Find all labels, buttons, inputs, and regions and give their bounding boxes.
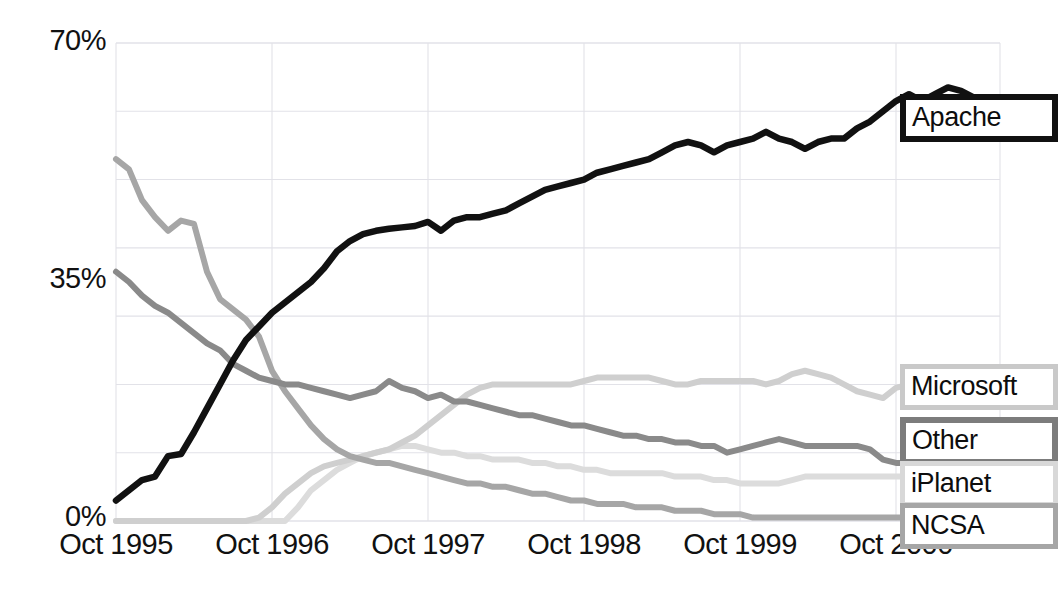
legend-label-other: Other [900, 417, 1058, 465]
legend-label-ncsa: NCSA [900, 503, 1058, 549]
y-tick-label-70: 70% [10, 24, 106, 57]
series-line-iplanet [116, 446, 987, 521]
legend-label-iplanet: iPlanet [900, 461, 1058, 507]
web-server-share-chart: 70% 35% 0% Oct 1995 Oct 1996 Oct 1997 Oc… [0, 0, 1058, 612]
legend-label-microsoft: Microsoft [900, 364, 1058, 410]
y-tick-label-35: 35% [10, 262, 106, 295]
series-line-apache [116, 87, 987, 500]
series-lines [116, 87, 987, 521]
legend-label-apache: Apache [900, 94, 1058, 142]
series-line-other [116, 272, 987, 477]
